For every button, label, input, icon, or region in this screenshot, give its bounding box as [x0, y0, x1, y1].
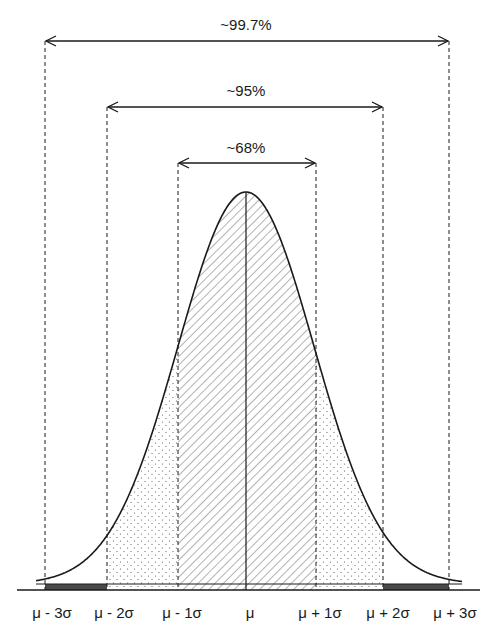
axis-label-minus-2sigma: μ - 2σ [94, 604, 134, 621]
normal-distribution-diagram: ~99.7% ~95% ~68% μ - 3σ μ - 2σ μ - 1σ μ … [0, 0, 500, 643]
range-label-99-7: ~99.7% [220, 16, 271, 33]
axis-label-plus-1sigma: μ + 1σ [298, 604, 342, 621]
range-label-95: ~95% [227, 82, 266, 99]
range-label-68: ~68% [227, 139, 266, 156]
axis-label-mu: μ [246, 604, 255, 621]
axis-label-minus-3sigma: μ - 3σ [32, 604, 72, 621]
axis-label-minus-1sigma: μ - 1σ [162, 604, 202, 621]
area-fills [107, 192, 383, 590]
tail-band-left [45, 584, 107, 590]
axis-label-plus-2sigma: μ + 2σ [366, 604, 410, 621]
hatched-area-1sigma [178, 192, 316, 590]
axis-label-plus-3sigma: μ + 3σ [433, 604, 477, 621]
tail-band-right [383, 584, 449, 590]
